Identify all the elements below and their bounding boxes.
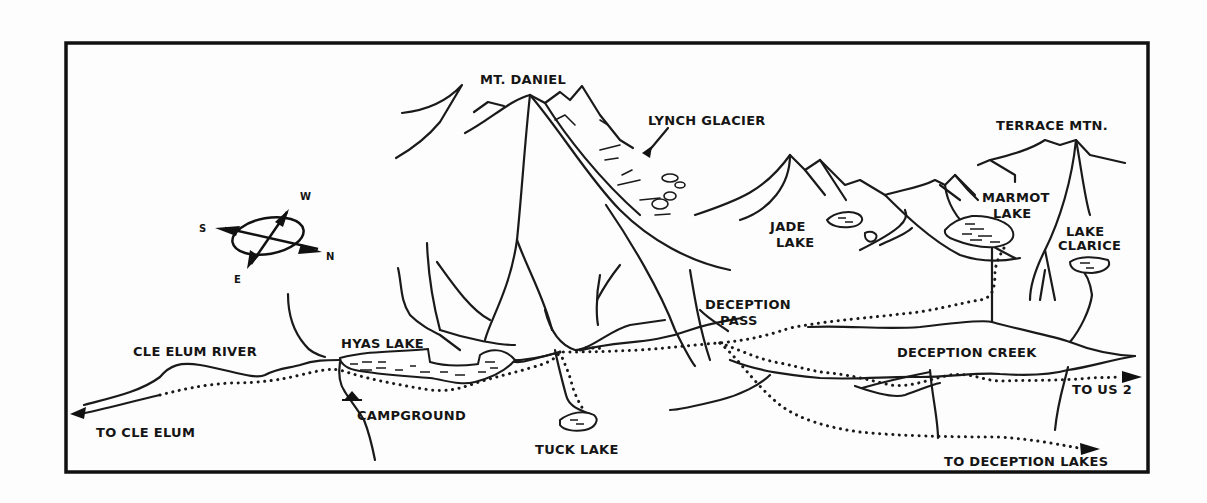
label-to-us2: TO US 2 [1072,382,1132,397]
label-jade-lake-1: JADE [769,219,806,234]
arrow-to-cle-elum-icon [70,407,86,419]
label-lake-clarice-2: CLARICE [1058,238,1121,253]
label-tuck-lake: TUCK LAKE [535,442,619,457]
label-jade-lake-2: LAKE [776,235,815,250]
rivers [84,220,1135,460]
label-marmot-lake-1: MARMOT [982,190,1050,205]
label-terrace-mtn: TERRACE MTN. [996,118,1108,133]
label-campground: CAMPGROUND [357,408,466,423]
tuck-lake [560,412,597,430]
compass-west-label: W [300,191,311,202]
label-marmot-lake-2: LAKE [993,206,1032,221]
label-deception-pass-2: PASS [720,313,758,328]
trail-main [160,248,1004,395]
compass-south-label: S [199,223,206,234]
trail-tuck-lake [560,352,585,412]
label-deception-creek: DECEPTION CREEK [897,345,1037,360]
label-hyas-lake: HYAS LAKE [341,336,424,351]
label-cle-elum-river: CLE ELUM RIVER [133,344,257,359]
compass-east-label: E [234,274,241,285]
label-deception-pass-1: DECEPTION [705,297,791,312]
map-frame [66,43,1148,472]
label-mt-daniel: MT. DANIEL [480,72,566,87]
label-to-cle-elum: TO CLE ELUM [96,425,195,440]
trail-map: W S N E [0,0,1207,503]
jade-lake [827,212,862,227]
compass-icon: W S N E [199,191,334,285]
hyas-lake [340,349,515,383]
compass-north-label: N [326,251,334,262]
lake-clarice [1070,257,1109,273]
label-lake-clarice-1: LAKE [1066,224,1105,239]
label-lynch-glacier: LYNCH GLACIER [648,113,766,128]
label-to-deception-lakes: TO DECEPTION LAKES [944,454,1108,469]
